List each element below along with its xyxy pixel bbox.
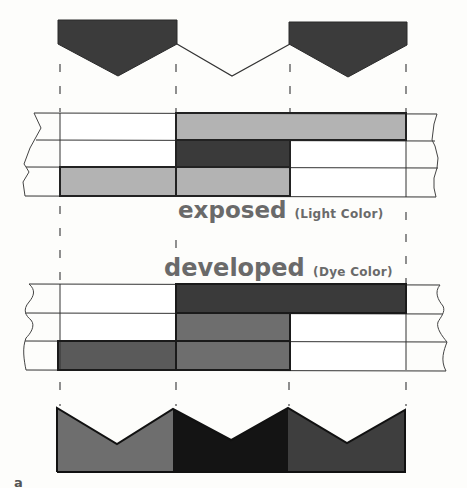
developed-title: developed <box>164 254 305 282</box>
developed-r3-c3 <box>290 341 406 370</box>
developed-label: developed (Dye Color) <box>164 256 393 280</box>
developed-r2-c3 <box>290 313 406 341</box>
developed-r3-c1 <box>58 341 176 370</box>
exposed-torn-right-edge <box>432 114 438 197</box>
top-waveform <box>58 20 407 77</box>
top-wave-right-peak <box>289 22 407 77</box>
developed-torn-left-edge <box>24 284 34 370</box>
top-wave-middle-line <box>177 44 290 76</box>
developed-r3-c2 <box>176 341 290 370</box>
exposed-r1-c1 <box>60 113 176 140</box>
exposed-r2-c1 <box>60 140 176 167</box>
exposed-r3-c1 <box>60 167 176 196</box>
bottom-waveform <box>57 408 405 472</box>
exposed-r1-c2 <box>176 113 290 140</box>
exposed-title: exposed <box>178 197 286 223</box>
exposed-torn-left-edge <box>23 113 41 196</box>
developed-r1-c3 <box>290 284 406 313</box>
developed-r1-c2 <box>176 284 290 313</box>
exposed-film-strip <box>23 113 438 197</box>
exposed-r3-c2 <box>176 167 290 196</box>
exposed-subtitle: (Light Color) <box>294 207 383 221</box>
developed-torn-right-edge <box>437 285 447 371</box>
figure-letter: a <box>14 476 23 488</box>
exposed-r3-c3 <box>290 167 406 196</box>
developed-r2-c2 <box>176 313 290 341</box>
exposed-label: exposed (Light Color) <box>178 199 383 222</box>
developed-r1-c1 <box>60 284 176 313</box>
developed-film-strip <box>24 284 447 371</box>
top-wave-left-peak <box>58 20 177 76</box>
developed-r2-c1 <box>60 313 176 341</box>
exposed-r2-c2 <box>176 140 290 167</box>
exposed-r2-c3 <box>290 140 406 167</box>
developed-subtitle: (Dye Color) <box>313 265 393 279</box>
exposed-r1-c3 <box>290 113 406 140</box>
film-layer-diagram <box>0 0 467 488</box>
